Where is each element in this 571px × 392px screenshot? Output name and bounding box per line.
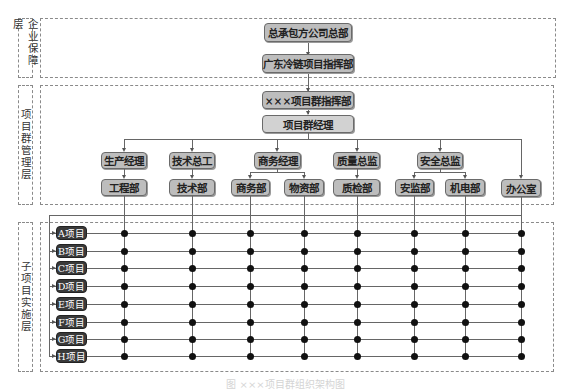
junction-dot — [247, 265, 254, 272]
junction-dot — [411, 336, 418, 343]
project-row-line — [49, 322, 522, 323]
node-label: ×××项目群指挥部 — [265, 93, 351, 108]
column-line-office — [521, 197, 522, 357]
junction-dot — [518, 336, 525, 343]
junction-dot — [462, 319, 469, 326]
junction-dot — [411, 319, 418, 326]
project-node: F项目 — [56, 315, 87, 329]
node-production-manager: 生产经理 — [101, 152, 147, 169]
junction-dot — [354, 319, 361, 326]
junction-dot — [189, 283, 196, 290]
connector — [521, 139, 522, 177]
node-label: 工程部 — [109, 180, 139, 195]
project-row-line — [49, 251, 522, 252]
node-label: 办公室 — [506, 181, 536, 196]
junction-dot — [189, 248, 196, 255]
project-row-line — [49, 286, 522, 287]
junction-dot — [411, 265, 418, 272]
layer-label-enterprise: 企业保障层 — [18, 18, 33, 78]
project-node: H项目 — [56, 349, 87, 363]
column-line-mech-elec — [465, 196, 466, 357]
node-label: 商务部 — [236, 180, 266, 195]
junction-dot — [189, 336, 196, 343]
junction-dot — [247, 230, 254, 237]
junction-dot — [354, 283, 361, 290]
project-bus-horizontal — [49, 215, 522, 216]
junction-dot — [462, 265, 469, 272]
junction-dot — [301, 265, 308, 272]
project-node: D项目 — [56, 279, 87, 293]
layer-label-group-management: 项目群管理层 — [18, 85, 33, 205]
project-row-line — [49, 233, 522, 234]
junction-dot — [411, 301, 418, 308]
manager-bus — [124, 139, 522, 140]
junction-dot — [247, 301, 254, 308]
connector — [414, 172, 466, 173]
node-label: 总承包方公司总部 — [268, 25, 348, 40]
junction-dot — [462, 336, 469, 343]
column-line-quality — [357, 196, 358, 357]
junction-dot — [247, 319, 254, 326]
node-label: 安全总监 — [420, 153, 460, 168]
node-label: 技术部 — [177, 180, 207, 195]
node-label: 商务经理 — [258, 153, 298, 168]
node-business-manager: 商务经理 — [254, 152, 301, 169]
junction-dot — [518, 283, 525, 290]
junction-dot — [301, 230, 308, 237]
junction-dot — [301, 353, 308, 360]
project-row-line — [49, 356, 522, 357]
node-group-manager: 项目群经理 — [262, 115, 354, 133]
project-row-line — [49, 339, 522, 340]
node-chief-engineer: 技术总工 — [169, 152, 215, 169]
junction-dot — [121, 319, 128, 326]
junction-dot — [518, 301, 525, 308]
node-label: 技术总工 — [172, 153, 212, 168]
node-label: 生产经理 — [104, 153, 144, 168]
node-label: 广东冷链项目指挥部 — [263, 56, 353, 71]
junction-dot — [247, 283, 254, 290]
project-node: G项目 — [56, 332, 87, 346]
node-label: 质量总监 — [337, 153, 377, 168]
column-line-engineering — [124, 196, 125, 357]
junction-dot — [301, 248, 308, 255]
node-safety-supervision-dept: 安监部 — [395, 179, 434, 196]
node-office: 办公室 — [501, 179, 541, 197]
junction-dot — [189, 353, 196, 360]
project-node: A项目 — [56, 226, 87, 240]
layer-label-text: 项目群管理层 — [18, 109, 33, 181]
project-label: C项目 — [58, 261, 85, 275]
node-materials-dept: 物资部 — [284, 179, 324, 196]
project-label: F项目 — [58, 315, 85, 329]
node-technical-dept: 技术部 — [169, 179, 215, 196]
node-quality-inspection-dept: 质检部 — [333, 179, 380, 196]
junction-dot — [518, 248, 525, 255]
junction-dot — [354, 301, 361, 308]
junction-dot — [247, 336, 254, 343]
junction-dot — [354, 230, 361, 237]
project-node: B项目 — [56, 244, 87, 258]
junction-dot — [189, 301, 196, 308]
junction-dot — [301, 336, 308, 343]
layer-label-text: 企业保障层 — [11, 19, 41, 77]
column-line-technical — [192, 196, 193, 357]
layer-label-text: 子项目实施层 — [18, 261, 33, 333]
project-row-line — [49, 268, 522, 269]
project-label: A项目 — [58, 226, 85, 240]
junction-dot — [121, 265, 128, 272]
figure-caption: 图 ×××项目群组织架构图 — [0, 376, 571, 391]
column-line-business — [250, 196, 251, 357]
junction-dot — [411, 283, 418, 290]
junction-dot — [462, 283, 469, 290]
project-label: H项目 — [57, 349, 85, 363]
junction-dot — [121, 248, 128, 255]
project-node: E项目 — [56, 297, 87, 311]
layer-box-sub-project — [40, 222, 554, 372]
junction-dot — [354, 353, 361, 360]
node-company-hq: 总承包方公司总部 — [264, 23, 352, 42]
junction-dot — [121, 336, 128, 343]
junction-dot — [354, 248, 361, 255]
junction-dot — [411, 248, 418, 255]
junction-dot — [462, 353, 469, 360]
junction-dot — [518, 353, 525, 360]
node-label: 质检部 — [342, 180, 372, 195]
